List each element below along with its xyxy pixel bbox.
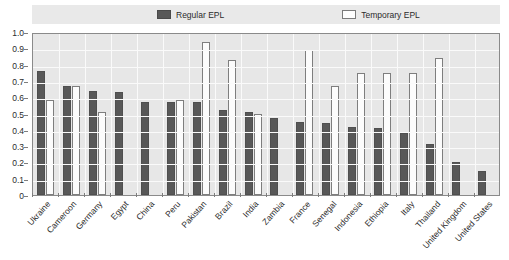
bar-group — [85, 34, 111, 195]
gridline-horizontal — [33, 83, 499, 84]
bar-regular-epl — [348, 127, 356, 195]
x-axis-tick-label: Italy — [399, 199, 417, 217]
x-axis-tick-mark — [292, 193, 293, 197]
x-axis-label-slot: United States — [474, 197, 500, 260]
x-axis-tick-mark — [474, 193, 475, 197]
bar-temporary-epl — [98, 112, 106, 195]
gridline-vertical — [59, 34, 60, 195]
bar-temporary-epl — [357, 73, 365, 195]
bar-regular-epl — [89, 91, 97, 195]
bar-group — [33, 34, 59, 195]
y-axis-tick-label: 0.3 — [12, 142, 24, 152]
gridline-horizontal — [33, 67, 499, 68]
y-axis-tick-label: 0.1 — [12, 175, 24, 185]
legend-label-temporary-epl: Temporary EPL — [361, 10, 420, 20]
x-axis-label-slot: Ethiopia — [370, 197, 396, 260]
bar-regular-epl — [245, 112, 253, 195]
x-axis-tick-mark — [266, 193, 267, 197]
bar-regular-epl — [63, 86, 71, 195]
y-axis-tick-label: 0.9 — [12, 44, 24, 54]
x-axis-tick-label: Peru — [163, 199, 182, 219]
legend-swatch-regular-icon — [157, 10, 171, 19]
y-axis-tick-label: 0.5 — [12, 110, 24, 120]
x-axis-tick-label: France — [287, 199, 312, 225]
x-axis-tick-mark — [84, 193, 85, 197]
gridline-horizontal — [33, 99, 499, 100]
bar-group — [111, 34, 137, 195]
bar-group — [421, 34, 447, 195]
y-axis-tick-mark — [24, 115, 28, 116]
x-axis-tick-mark — [240, 193, 241, 197]
x-axis-tick-mark — [318, 193, 319, 197]
gridline-horizontal — [33, 116, 499, 117]
bar-regular-epl — [37, 71, 45, 195]
bar-temporary-epl — [72, 86, 80, 195]
legend-item-regular-epl: Regular EPL — [157, 10, 224, 20]
x-axis-tick-mark — [136, 193, 137, 197]
x-axis-label-slot: Pakistan — [188, 197, 214, 260]
x-axis-label-slot: Indonesia — [344, 197, 370, 260]
bar-temporary-epl — [383, 73, 391, 195]
bar-group — [266, 34, 292, 195]
x-axis-tick-mark — [422, 193, 423, 197]
y-axis: 1.00.90.80.70.60.50.40.30.20.10 — [0, 33, 28, 196]
bar-group — [395, 34, 421, 195]
gridline-vertical — [449, 34, 450, 195]
y-axis-tick-label: 0.6 — [12, 93, 24, 103]
bar-temporary-epl — [228, 60, 236, 195]
bar-group — [447, 34, 473, 195]
bar-temporary-epl — [254, 114, 262, 196]
bar-temporary-epl — [202, 42, 210, 195]
gridline-vertical — [163, 34, 164, 195]
x-axis-label-slot: France — [292, 197, 318, 260]
gridline-vertical — [111, 34, 112, 195]
gridline-vertical — [319, 34, 320, 195]
y-axis-tick-label: 0.8 — [12, 61, 24, 71]
gridline-horizontal — [33, 164, 499, 165]
gridline-horizontal — [33, 181, 499, 182]
bar-regular-epl — [452, 162, 460, 195]
x-axis-label-slot: Germany — [84, 197, 110, 260]
bar-regular-epl — [115, 92, 123, 195]
y-axis-tick-label: 0.2 — [12, 158, 24, 168]
gridline-vertical — [423, 34, 424, 195]
gridline-vertical — [215, 34, 216, 195]
x-axis-tick-label: Egypt — [108, 199, 130, 222]
x-axis-tick-mark — [370, 193, 371, 197]
x-axis-tick-label: India — [241, 199, 261, 219]
legend-label-regular-epl: Regular EPL — [176, 10, 224, 20]
bar-groups — [33, 34, 499, 195]
bar-regular-epl — [219, 110, 227, 195]
bar-regular-epl — [478, 171, 486, 195]
gridline-vertical — [241, 34, 242, 195]
x-axis-tick-mark — [162, 193, 163, 197]
gridline-vertical — [189, 34, 190, 195]
y-axis-tick-mark — [24, 49, 28, 50]
bar-group — [344, 34, 370, 195]
bar-temporary-epl — [305, 50, 313, 195]
bar-temporary-epl — [409, 73, 417, 195]
bar-group — [59, 34, 85, 195]
y-axis-tick-mark — [24, 147, 28, 148]
y-axis-tick-label: 1.0 — [12, 28, 24, 38]
x-axis-tick-mark — [448, 193, 449, 197]
bar-temporary-epl — [435, 58, 443, 195]
y-axis-tick-mark — [24, 82, 28, 83]
x-axis-tick-mark — [58, 193, 59, 197]
y-axis-tick-mark — [24, 66, 28, 67]
legend-swatch-temporary-icon — [342, 10, 356, 19]
x-axis-label-slot: Egypt — [110, 197, 136, 260]
y-axis-tick-mark — [24, 33, 28, 34]
x-axis-label-slot: India — [240, 197, 266, 260]
y-axis-tick-label: 0.7 — [12, 77, 24, 87]
chart-legend: Regular EPL Temporary EPL — [32, 5, 500, 24]
gridline-vertical — [475, 34, 476, 195]
x-axis-tick-mark — [344, 193, 345, 197]
bar-temporary-epl — [331, 86, 339, 195]
y-axis-tick-mark — [24, 196, 28, 197]
bar-group — [214, 34, 240, 195]
bar-regular-epl — [270, 118, 278, 195]
gridline-horizontal — [33, 148, 499, 149]
y-axis-tick-mark — [24, 163, 28, 164]
gridline-vertical — [397, 34, 398, 195]
